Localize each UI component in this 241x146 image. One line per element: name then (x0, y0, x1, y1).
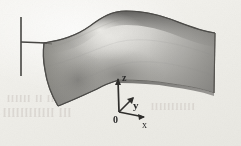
figure-root: ll ll llllll lll llllllllllll llllllllll… (0, 0, 241, 146)
origin-label: 0 (113, 114, 118, 125)
surface-body (38, 8, 222, 112)
x-axis-label: x (142, 119, 147, 130)
y-axis-label: y (133, 99, 139, 111)
surface-figure-svg: z y x 0 (0, 0, 241, 146)
z-axis-label: z (122, 72, 127, 83)
